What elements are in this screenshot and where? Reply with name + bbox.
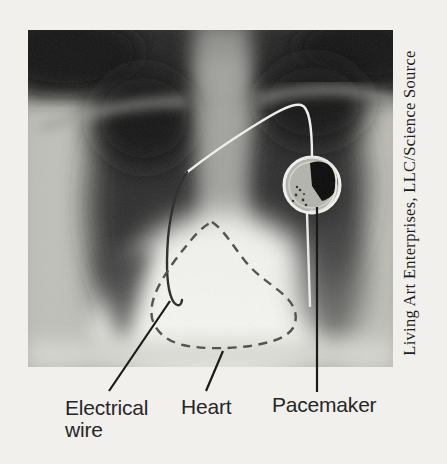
pacemaker-label: Pacemaker — [272, 394, 376, 416]
figure-chest-xray-pacemaker: Electrical wire Heart Pacemaker Living A… — [0, 0, 447, 464]
film-grain — [28, 30, 393, 367]
xray-image — [0, 14, 442, 376]
heart-label: Heart — [181, 396, 231, 418]
electrical-wire-label: Electrical wire — [65, 397, 165, 441]
photo-credit: Living Art Enterprises, LLC/Science Sour… — [400, 50, 420, 355]
